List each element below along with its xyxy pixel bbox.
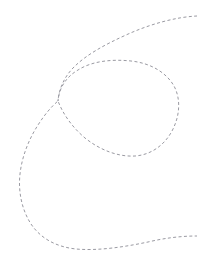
figure-canvas: Dashed looping curve — [0, 0, 197, 267]
figure-background — [0, 0, 197, 267]
dashed-curve-figure: Dashed looping curve — [0, 0, 197, 267]
